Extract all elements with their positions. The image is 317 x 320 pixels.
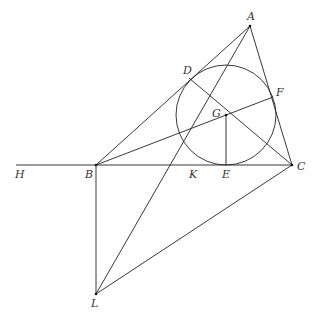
diagram-svg: ABCDEFGHKL: [0, 0, 317, 320]
point-a-marker: [249, 25, 252, 28]
label-h: H: [14, 168, 25, 181]
segment-ab: [96, 26, 250, 165]
label-a: A: [246, 10, 255, 23]
label-g: G: [212, 107, 221, 120]
point-labels: ABCDEFGHKL: [14, 10, 306, 310]
point-c-marker: [291, 164, 294, 167]
segment-ac: [250, 26, 292, 165]
label-l: L: [90, 297, 98, 310]
label-c: C: [297, 160, 306, 173]
segment-lc: [96, 165, 292, 294]
label-k: K: [188, 168, 198, 181]
segment-al: [96, 26, 250, 294]
point-markers: [95, 25, 294, 296]
point-g-marker: [225, 114, 228, 117]
segment-bf: [96, 97, 273, 165]
label-b: B: [84, 168, 93, 181]
point-l-marker: [95, 293, 98, 296]
label-e: E: [221, 168, 230, 181]
label-d: D: [182, 64, 192, 77]
line-segments: [16, 26, 292, 294]
label-f: F: [275, 86, 284, 99]
point-b-marker: [95, 164, 98, 167]
geometry-diagram: ABCDEFGHKL: [0, 0, 317, 320]
